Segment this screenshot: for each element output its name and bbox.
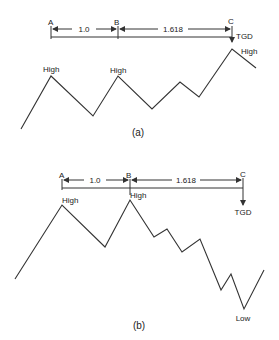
ratio-bc-label: 1.618: [163, 25, 184, 34]
panel-a: A B C 1.0 1.618 TGD High High High (a): [21, 17, 257, 138]
high-label-a: High: [43, 65, 59, 74]
fibonacci-time-diagram: A B C 1.0 1.618 TGD High High High (a) A…: [0, 0, 279, 340]
point-a-label: A: [59, 171, 65, 180]
price-path: [15, 200, 264, 309]
high-label-b: High: [110, 66, 126, 75]
point-c-label: C: [240, 170, 246, 179]
point-b-label: B: [126, 171, 131, 180]
price-path: [21, 49, 256, 129]
high-label-c: High: [241, 47, 257, 56]
caption-b: (b): [133, 320, 145, 331]
high-label-a: High: [62, 196, 78, 205]
tgd-label: TGD: [236, 32, 253, 41]
tgd-label: TGD: [235, 208, 252, 217]
low-label: Low: [236, 314, 251, 323]
ratio-bc-label: 1.618: [176, 176, 197, 185]
high-label-b: High: [130, 191, 146, 200]
ratio-ab-label: 1.0: [78, 25, 90, 34]
point-a-label: A: [48, 18, 54, 27]
caption-a: (a): [132, 127, 144, 138]
point-c-label: C: [228, 17, 234, 26]
ratio-ab-label: 1.0: [89, 176, 101, 185]
point-b-label: B: [114, 18, 119, 27]
panel-b: A B C 1.0 1.618 TGD High High Low (b): [15, 170, 264, 331]
